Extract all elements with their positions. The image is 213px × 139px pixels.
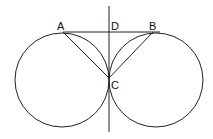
label-d: D	[111, 20, 119, 32]
label-a: A	[57, 20, 65, 32]
label-b: B	[149, 20, 156, 32]
geometry-diagram: A D B C	[0, 0, 213, 139]
right-circle	[109, 33, 203, 127]
left-circle	[15, 33, 109, 127]
segment-bc	[109, 32, 153, 78]
label-c: C	[111, 79, 119, 91]
